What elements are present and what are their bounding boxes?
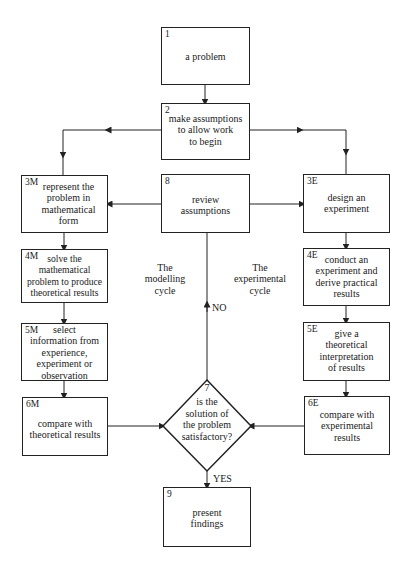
node-4e-conduct-experiment: 4E conduct an experiment and derive prac… bbox=[303, 248, 390, 306]
no-label: NO bbox=[212, 302, 226, 313]
node-text: make assumptions to allow work to begin bbox=[162, 113, 249, 147]
node-9-present-findings: 9 present findings bbox=[163, 487, 251, 547]
node-number: 1 bbox=[165, 29, 170, 40]
node-7-number: 7 bbox=[197, 382, 217, 394]
yes-label: YES bbox=[213, 473, 232, 484]
node-text: solve the mathematical problem to produc… bbox=[22, 253, 107, 299]
node-1-problem: 1 a problem bbox=[161, 27, 250, 85]
node-2-make-assumptions: 2 make assumptions to allow work to begi… bbox=[161, 103, 250, 160]
node-5e-theoretical-interpretation: 5E give a theoretical interpretation of … bbox=[303, 322, 390, 381]
modelling-cycle-label: The modelling cycle bbox=[135, 262, 195, 296]
flowchart-canvas: 1 a problem 2 make assumptions to allow … bbox=[0, 0, 414, 571]
node-text: give a theoretical interpretation of res… bbox=[304, 328, 389, 374]
node-text: a problem bbox=[162, 51, 249, 62]
node-7-decision-text: is the solution of the problem satisfact… bbox=[167, 396, 247, 442]
node-text: present findings bbox=[164, 507, 250, 530]
node-6e-compare-experimental: 6E compare with experimental results bbox=[304, 396, 390, 455]
node-8-review-assumptions: 8 review assumptions bbox=[161, 174, 250, 233]
node-3e-design-experiment: 3E design an experiment bbox=[303, 174, 390, 233]
node-text: represent the problem in mathematical fo… bbox=[30, 181, 107, 227]
node-text: select information from experience, expe… bbox=[22, 324, 107, 381]
node-text: design an experiment bbox=[304, 192, 389, 215]
node-number: 6M bbox=[26, 399, 39, 410]
node-text: review assumptions bbox=[162, 194, 249, 217]
node-text: compare with experimental results bbox=[305, 409, 389, 443]
node-number: 3E bbox=[307, 176, 318, 187]
node-5m-select-information: 5M select information from experience, e… bbox=[21, 323, 108, 381]
node-3m-represent-problem: 3M represent the problem in mathematical… bbox=[21, 175, 108, 233]
node-text: conduct an experiment and derive practic… bbox=[304, 254, 389, 300]
node-6m-compare-theoretical: 6M compare with theoretical results bbox=[22, 397, 108, 456]
node-number: 9 bbox=[167, 489, 172, 500]
node-number: 6E bbox=[308, 398, 319, 409]
node-number: 8 bbox=[165, 176, 170, 187]
node-4m-solve-problem: 4M solve the mathematical problem to pro… bbox=[21, 249, 108, 303]
node-text: compare with theoretical results bbox=[23, 418, 107, 441]
experimental-cycle-label: The experimental cycle bbox=[225, 262, 295, 296]
